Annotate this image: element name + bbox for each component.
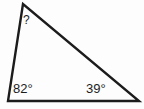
bottom-right-angle-label: 39° [86, 82, 106, 95]
apex-angle-label: ? [23, 14, 30, 26]
triangle-figure: ? 82° 39° [0, 0, 144, 109]
bottom-left-angle-label: 82° [13, 82, 33, 95]
